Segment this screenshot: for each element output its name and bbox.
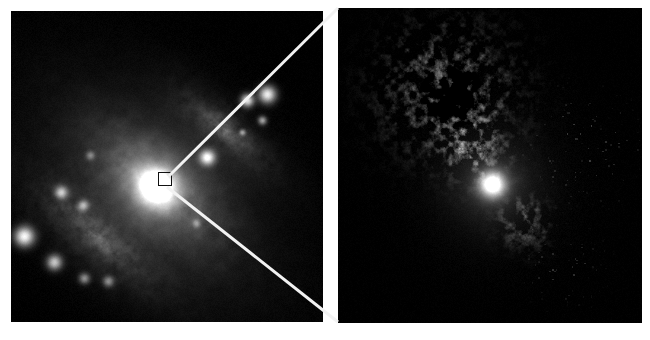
panel-nuclear-detail[interactable] — [338, 8, 642, 323]
figure-root: Two-panel astronomical image: wide-field… — [0, 0, 650, 340]
panel-wide-field[interactable] — [11, 11, 323, 322]
inset-region-box[interactable] — [158, 172, 172, 186]
wide-field-sky-canvas — [11, 11, 323, 322]
nuclear-detail-sky-canvas — [338, 8, 642, 323]
